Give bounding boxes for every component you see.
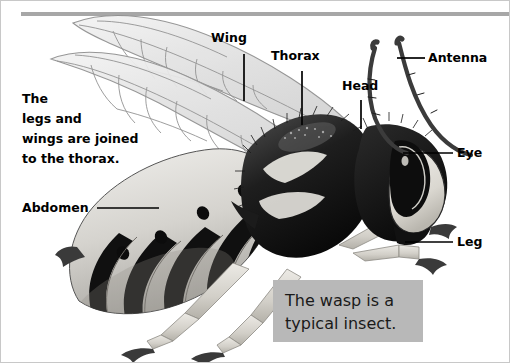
head-group <box>354 112 447 245</box>
antenna-right-tip <box>397 38 402 43</box>
fore-leg2-tibia <box>399 245 419 259</box>
caption-box: The wasp is a typical insect. <box>273 280 423 342</box>
body-text-block: The legs and wings are joined to the tho… <box>22 89 192 169</box>
label-head: Head <box>342 79 378 93</box>
caption-line-1: The wasp is a <box>285 289 423 312</box>
label-abdomen: Abdomen <box>22 201 89 215</box>
body-text-line-2: legs and <box>22 109 192 129</box>
wasp-anatomy-figure: Wing Thorax Head Antenna Eye Leg Abdomen… <box>0 0 510 363</box>
body-text-line-1: The <box>22 89 192 109</box>
fore-leg2-claw <box>415 258 447 275</box>
label-thorax: Thorax <box>271 49 320 63</box>
caption-line-2: typical insect. <box>285 312 423 335</box>
hind-leg-tibia <box>161 313 199 341</box>
body-text-line-4: to the thorax. <box>22 149 192 169</box>
label-eye: Eye <box>457 146 482 160</box>
mid-leg-claw <box>191 352 225 363</box>
fore-leg-claw <box>429 224 457 239</box>
label-antenna: Antenna <box>428 51 487 65</box>
label-leg: Leg <box>457 235 482 249</box>
fore-leg2-femur <box>353 245 399 261</box>
label-wing: Wing <box>211 31 247 45</box>
hind-leg-claw <box>121 348 155 363</box>
eye-glint <box>402 156 409 166</box>
body-text-line-3: wings are joined <box>22 129 192 149</box>
